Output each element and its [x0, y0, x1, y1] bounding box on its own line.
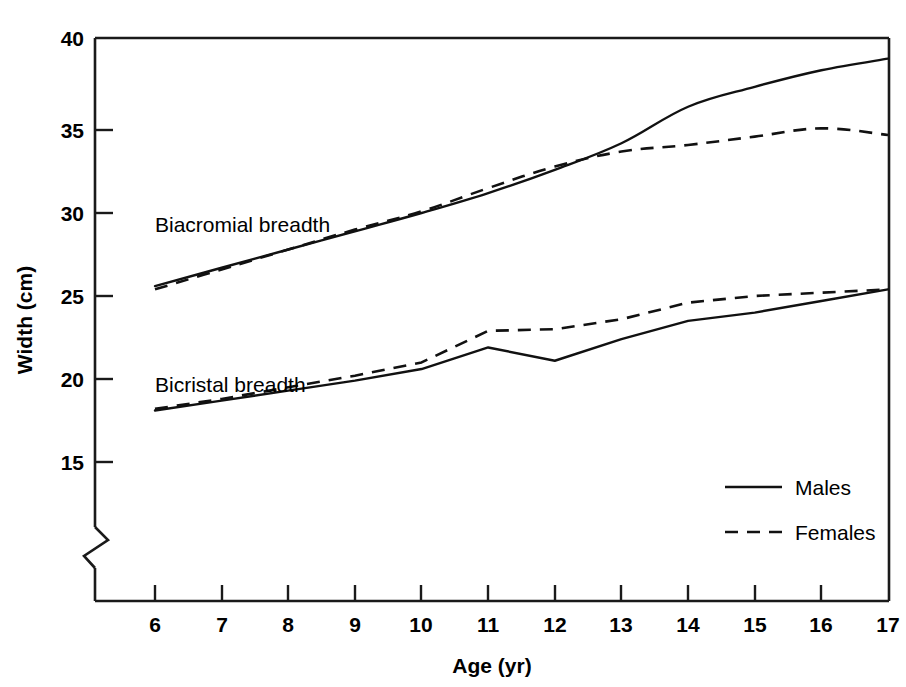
- x-tick-label-7: 7: [216, 613, 228, 636]
- x-tick-label-10: 10: [409, 613, 432, 636]
- series-line-biacromial-females: [155, 128, 888, 289]
- y-axis-title: Width (cm): [13, 266, 36, 374]
- series-line-biacromial-males: [155, 59, 888, 286]
- y-tick-labels: 40 35 30 25 20 15: [61, 27, 85, 474]
- y-tick-marks: [95, 130, 113, 462]
- figure-container: 40 35 30 25 20 15 Width (cm) 6 7: [0, 0, 906, 687]
- x-tick-label-16: 16: [809, 613, 832, 636]
- legend: Males Females: [725, 476, 876, 544]
- x-tick-label-12: 12: [543, 613, 566, 636]
- y-tick-label-30: 30: [61, 202, 84, 225]
- y-tick-label-40: 40: [61, 27, 84, 50]
- x-tick-marks: [155, 585, 821, 601]
- y-tick-label-25: 25: [61, 285, 85, 308]
- x-tick-label-13: 13: [609, 613, 632, 636]
- x-axis-title: Age (yr): [452, 654, 531, 677]
- x-tick-label-15: 15: [743, 613, 767, 636]
- legend-label-males: Males: [795, 476, 851, 499]
- y-axis-break-symbol: [84, 527, 108, 568]
- y-tick-label-20: 20: [61, 368, 84, 391]
- legend-label-females: Females: [795, 521, 876, 544]
- x-tick-labels: 6 7 8 9 10 11 12 13 14 15 16 17: [149, 613, 900, 636]
- x-tick-label-14: 14: [676, 613, 700, 636]
- x-tick-label-8: 8: [282, 613, 294, 636]
- x-tick-label-17: 17: [876, 613, 899, 636]
- y-tick-label-35: 35: [61, 119, 85, 142]
- x-tick-label-9: 9: [349, 613, 361, 636]
- axis-frame: [84, 38, 889, 601]
- x-tick-label-11: 11: [477, 613, 500, 636]
- annotation-biacromial-breadth: Biacromial breadth: [155, 213, 330, 236]
- y-tick-label-15: 15: [61, 451, 85, 474]
- annotation-bicristal-breadth: Bicristal breadth: [155, 373, 306, 396]
- line-chart: 40 35 30 25 20 15 Width (cm) 6 7: [0, 0, 906, 687]
- x-tick-label-6: 6: [149, 613, 161, 636]
